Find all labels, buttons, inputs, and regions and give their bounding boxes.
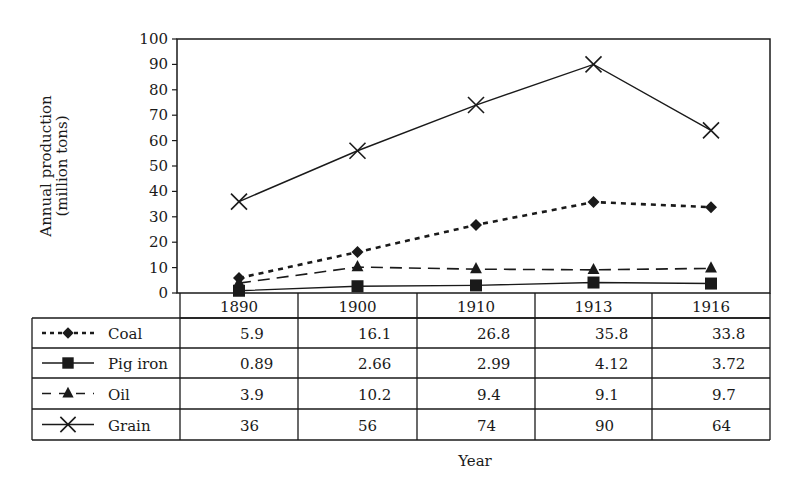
legend-swatch bbox=[42, 387, 94, 398]
table-cell: 74 bbox=[477, 417, 496, 435]
series-grain bbox=[231, 56, 719, 209]
series-line bbox=[239, 64, 711, 201]
series-lines bbox=[231, 56, 719, 296]
table-cell: 3.72 bbox=[712, 355, 745, 373]
table-cell: 9.1 bbox=[595, 386, 619, 404]
table-row: Grain3656749064 bbox=[42, 417, 731, 435]
square-marker-icon bbox=[62, 357, 73, 368]
year-header-cell: 1900 bbox=[338, 298, 376, 316]
y-axis-title-line: (million tons) bbox=[53, 116, 71, 217]
diamond-marker-icon bbox=[62, 327, 73, 338]
table-cell: 0.89 bbox=[240, 355, 273, 373]
legend-label: Grain bbox=[108, 417, 151, 435]
y-tick-label: 50 bbox=[149, 157, 168, 175]
x-marker-icon bbox=[468, 97, 484, 113]
table-cell: 16.1 bbox=[358, 325, 391, 343]
table-cell: 5.9 bbox=[240, 325, 264, 343]
x-marker-icon bbox=[231, 194, 247, 210]
table-cell: 35.8 bbox=[595, 325, 628, 343]
y-tick-label: 10 bbox=[149, 259, 168, 277]
diamond-marker-icon bbox=[705, 201, 717, 213]
table-cell: 33.8 bbox=[712, 325, 745, 343]
y-tick-label: 0 bbox=[158, 284, 168, 302]
x-marker-icon bbox=[586, 56, 602, 72]
year-header-cell: 1913 bbox=[574, 298, 612, 316]
legend-label: Oil bbox=[108, 386, 130, 404]
legend-swatch bbox=[42, 417, 94, 432]
table-cell: 90 bbox=[595, 417, 614, 435]
legend-swatch bbox=[42, 327, 94, 338]
y-tick-label: 20 bbox=[149, 233, 168, 251]
table-cell: 9.4 bbox=[477, 386, 501, 404]
table-cell: 9.7 bbox=[712, 386, 736, 404]
square-marker-icon bbox=[705, 278, 717, 290]
table-cell: 64 bbox=[712, 417, 731, 435]
y-axis-ticks: 0102030405060708090100 bbox=[139, 30, 177, 302]
year-header-cell: 1916 bbox=[692, 298, 730, 316]
y-tick-label: 80 bbox=[149, 81, 168, 99]
y-tick-label: 70 bbox=[149, 106, 168, 124]
triangle-marker-icon bbox=[705, 261, 717, 272]
legend-label: Pig iron bbox=[108, 355, 168, 373]
x-marker-icon bbox=[703, 122, 719, 138]
table-cell: 56 bbox=[358, 417, 377, 435]
table-cell: 4.12 bbox=[595, 355, 628, 373]
diamond-marker-icon bbox=[352, 246, 364, 258]
y-axis-title: Annual production(million tons) bbox=[37, 95, 71, 238]
square-marker-icon bbox=[352, 280, 364, 292]
table-row: Pig iron0.892.662.994.123.72 bbox=[42, 355, 745, 373]
table-row: Oil3.910.29.49.19.7 bbox=[42, 386, 736, 404]
y-tick-label: 60 bbox=[149, 132, 168, 150]
table-cell: 36 bbox=[240, 417, 259, 435]
table-cell: 10.2 bbox=[358, 386, 391, 404]
table-cell: 26.8 bbox=[477, 325, 510, 343]
x-marker-icon bbox=[350, 143, 366, 159]
y-tick-label: 30 bbox=[149, 208, 168, 226]
legend-swatch bbox=[42, 357, 94, 368]
diamond-marker-icon bbox=[470, 219, 482, 231]
y-tick-label: 100 bbox=[139, 30, 168, 48]
plot-frame bbox=[177, 39, 770, 293]
triangle-marker-icon bbox=[62, 387, 73, 398]
year-header-cell: 1890 bbox=[220, 298, 258, 316]
line-chart-with-data-table: Annual production(million tons) 01020304… bbox=[0, 0, 800, 486]
table-cell: 2.99 bbox=[477, 355, 510, 373]
year-header-cell: 1910 bbox=[457, 298, 495, 316]
legend-label: Coal bbox=[108, 325, 142, 343]
square-marker-icon bbox=[470, 279, 482, 291]
y-tick-label: 90 bbox=[149, 55, 168, 73]
triangle-marker-icon bbox=[588, 263, 600, 274]
table-cell: 2.66 bbox=[358, 355, 391, 373]
x-axis-title: Year bbox=[457, 452, 492, 470]
square-marker-icon bbox=[588, 277, 600, 289]
triangle-marker-icon bbox=[352, 260, 364, 271]
diamond-marker-icon bbox=[588, 196, 600, 208]
data-table: 18901900191019131916Coal5.916.126.835.83… bbox=[32, 293, 770, 440]
table-cell: 3.9 bbox=[240, 386, 264, 404]
triangle-marker-icon bbox=[470, 262, 482, 273]
table-row: Coal5.916.126.835.833.8 bbox=[42, 325, 745, 343]
y-tick-label: 40 bbox=[149, 182, 168, 200]
